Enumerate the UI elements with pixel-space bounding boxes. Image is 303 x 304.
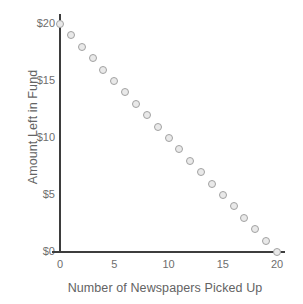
x-tick-label: 10: [149, 258, 189, 270]
x-tick-label: 5: [94, 258, 134, 270]
data-point: [251, 225, 259, 233]
scatter-chart: Amount Left in Fund Number of Newspapers…: [0, 0, 303, 304]
data-point: [154, 123, 162, 131]
data-point: [121, 88, 129, 96]
data-point: [67, 31, 75, 39]
data-point: [143, 111, 151, 119]
data-point: [110, 77, 118, 85]
data-point: [56, 20, 64, 28]
data-point: [132, 100, 140, 108]
y-tick-label: $15: [7, 74, 55, 86]
data-point: [273, 248, 281, 256]
y-tick-label: $5: [7, 188, 55, 200]
data-point: [175, 145, 183, 153]
data-point: [186, 157, 194, 165]
y-tick-label: $10: [7, 131, 55, 143]
x-axis-title: Number of Newspapers Picked Up: [40, 281, 290, 295]
data-point: [89, 54, 97, 62]
y-tick-label: $20: [7, 17, 55, 29]
data-point: [99, 66, 107, 74]
data-point: [219, 191, 227, 199]
y-tick-label: $0: [7, 245, 55, 257]
y-axis-line: [59, 14, 61, 253]
data-point: [78, 43, 86, 51]
x-tick-label: 0: [40, 258, 80, 270]
data-point: [230, 202, 238, 210]
data-point: [262, 237, 270, 245]
x-tick-label: 15: [203, 258, 243, 270]
y-axis-title: Amount Left in Fund: [26, 42, 40, 212]
data-point: [208, 180, 216, 188]
x-axis-line: [52, 251, 285, 253]
x-tick-label: 20: [257, 258, 297, 270]
data-point: [197, 168, 205, 176]
data-point: [240, 214, 248, 222]
data-point: [165, 134, 173, 142]
